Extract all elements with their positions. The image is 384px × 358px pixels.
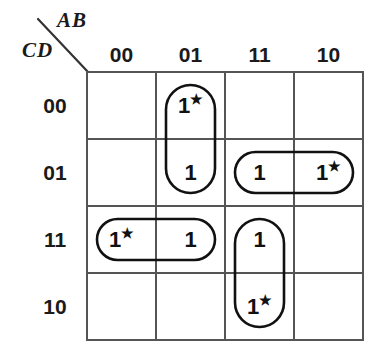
cell-r01-c01: 1	[156, 139, 225, 206]
cell-r11-c10	[294, 206, 363, 273]
cell-r01-c10: 1★	[294, 139, 363, 206]
row-header-3: 10	[30, 273, 80, 340]
karnaugh-map-diagram: AB CD 00 01 11 10 00 01 11 10 1★ 1 1 1★ …	[0, 0, 384, 358]
column-header-1: 01	[156, 42, 225, 68]
cell-r10-c01	[156, 273, 225, 340]
cell-r10-c10	[294, 273, 363, 340]
cell-r10-c11: 1★	[225, 273, 294, 340]
column-header-3: 10	[294, 42, 363, 68]
cell-r10-c00	[87, 273, 156, 340]
cell-r00-c01: 1★	[156, 72, 225, 139]
cell-r11-c11: 1	[225, 206, 294, 273]
cell-r00-c10	[294, 72, 363, 139]
cell-r00-c11	[225, 72, 294, 139]
cell-r01-c00	[87, 139, 156, 206]
top-variables-label: AB	[57, 8, 87, 33]
cell-r00-c00	[87, 72, 156, 139]
column-header-0: 00	[87, 42, 156, 68]
cell-r01-c11: 1	[225, 139, 294, 206]
cell-r11-c00: 1★	[87, 206, 156, 273]
row-header-0: 00	[30, 72, 80, 139]
row-header-1: 01	[30, 139, 80, 206]
row-header-2: 11	[30, 206, 80, 273]
column-header-2: 11	[225, 42, 294, 68]
cell-r11-c01: 1	[156, 206, 225, 273]
side-variables-label: CD	[22, 38, 53, 63]
